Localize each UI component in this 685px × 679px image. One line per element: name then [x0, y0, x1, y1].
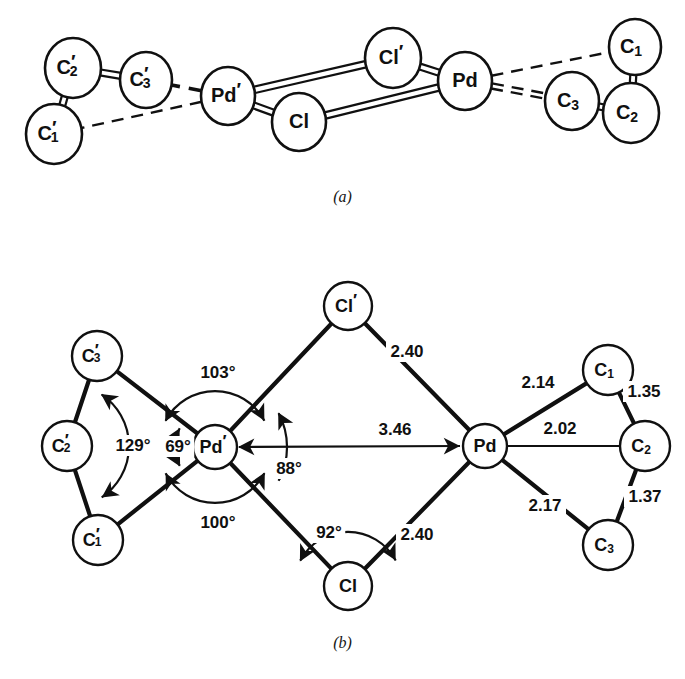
atom-pd-prime: Pd′	[193, 425, 237, 469]
label-text: 103°	[200, 363, 235, 382]
label-text: 129°	[115, 436, 150, 455]
label-text: 2.17	[528, 496, 561, 515]
distance-label-d-c2-c3: 1.37	[624, 486, 666, 507]
figure-root: C′2C′3C′1Pd′ClCl′PdC1C3C2 (a) C′3C′2C′1P…	[0, 0, 685, 679]
atom-c2-prime: C′2	[42, 421, 92, 471]
distance-label-d-pd-c1: 2.14	[517, 372, 559, 393]
bond-pdprime-c3prime	[116, 371, 199, 435]
angle-arc-103	[166, 391, 265, 421]
atom-cl: Cl	[324, 562, 372, 610]
panel-b-diagram: C′3C′2C′1Pd′Cl′ClPdC1C2C32.403.462.402.1…	[0, 0, 685, 679]
label-text: 1.37	[628, 487, 661, 506]
atom-c3-prime: C′3	[72, 331, 122, 381]
bond-pd-c3	[501, 459, 590, 530]
angle-label-a-103: 103°	[197, 362, 239, 383]
angle-label-a-92: 92°	[313, 522, 346, 543]
label-text: 3.46	[378, 420, 411, 439]
distance-label-d-pdp-pd: 3.46	[374, 419, 416, 440]
label-text: 88°	[276, 459, 302, 478]
atom-c1-prime: C′1	[73, 515, 123, 565]
angle-label-a-129: 129°	[112, 435, 154, 456]
atom-label: C′3	[82, 341, 101, 365]
atom-pd: Pd	[463, 424, 507, 468]
bond-c2prime-c1prime	[75, 469, 91, 517]
angle-label-a-100: 100°	[197, 512, 239, 533]
label-text: 2.14	[521, 373, 555, 392]
atom-c3: C3	[583, 520, 633, 570]
label-text: 1.35	[627, 382, 660, 401]
distance-label-d-pd-c3: 2.17	[524, 495, 566, 516]
atom-label: C′2	[52, 431, 71, 455]
angle-arc-100	[166, 473, 265, 503]
distance-label-d-c1-c2: 1.35	[623, 381, 665, 402]
label-text: 69°	[165, 437, 191, 456]
label-text: 92°	[316, 523, 342, 542]
angle-label-a-69: 69°	[162, 436, 195, 457]
caption-b: (b)	[0, 634, 685, 652]
label-text: 2.40	[400, 525, 433, 544]
atom-label: Cl	[339, 576, 357, 596]
distance-label-d-pd-c2: 2.02	[539, 418, 581, 439]
atom-label: C′1	[83, 525, 102, 549]
distance-label-d-cl-pd: 2.40	[396, 524, 438, 545]
label-text: 2.40	[390, 342, 423, 361]
atom-label: Pd	[473, 436, 496, 456]
label-text: 2.02	[543, 419, 576, 438]
bond-pd-cl	[364, 460, 471, 569]
bond-c3prime-c2prime	[75, 379, 90, 423]
angle-label-a-88: 88°	[273, 458, 306, 479]
bond-pdprime-c1prime	[117, 459, 200, 525]
distance-label-d-clp-pd: 2.40	[386, 341, 428, 362]
bond-pd-clprime	[364, 322, 471, 431]
atom-cl-prime: Cl′	[324, 282, 372, 330]
label-text: 100°	[200, 513, 235, 532]
atom-c2: C2	[620, 421, 670, 471]
measure-arrow-pdprime-pd	[239, 446, 460, 447]
